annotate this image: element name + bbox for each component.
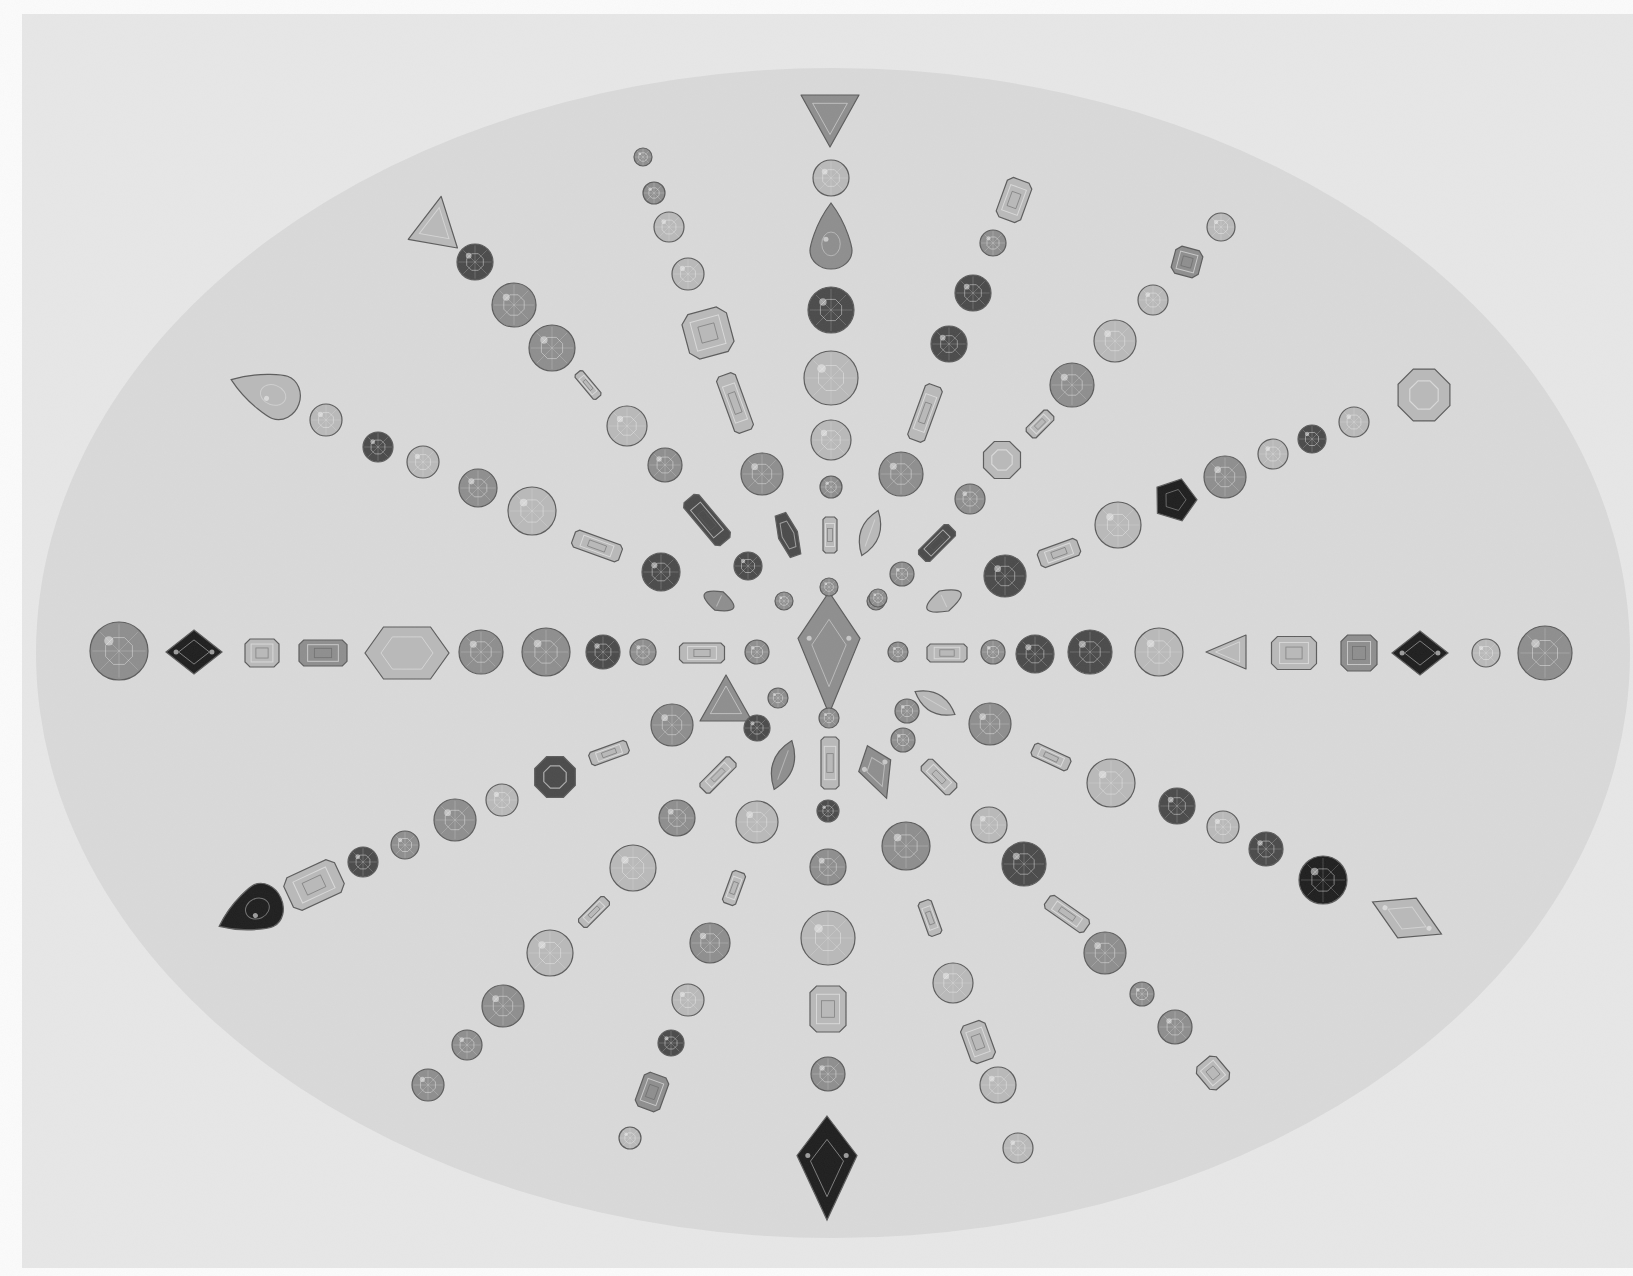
film-grain-overlay	[0, 0, 1633, 1276]
gemstone-photograph	[0, 0, 1633, 1276]
